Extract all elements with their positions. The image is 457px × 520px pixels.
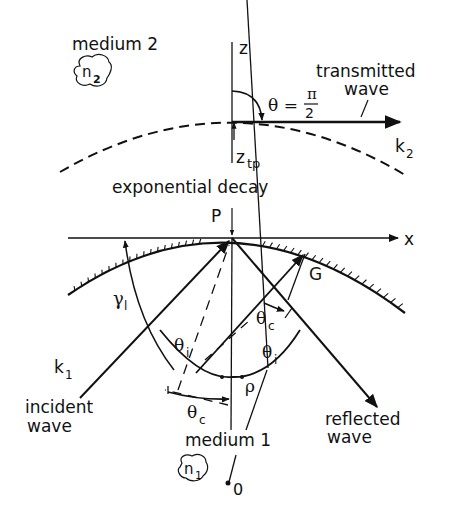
theta-pi-2-arc xyxy=(232,91,262,120)
x-axis-label: x xyxy=(404,229,414,249)
reflected-label-line2: wave xyxy=(327,427,372,447)
svg-text:z: z xyxy=(236,147,245,167)
incident-label-line1: incident xyxy=(25,397,94,417)
svg-text:i: i xyxy=(274,353,277,367)
theta-i-left-label: θ i xyxy=(174,335,189,360)
hatch-mark xyxy=(383,293,388,297)
k2-label: k 2 xyxy=(395,136,414,161)
hatch-mark xyxy=(319,258,323,263)
hatch-mark xyxy=(340,268,344,272)
svg-text:θ: θ xyxy=(174,335,184,355)
svg-text:2: 2 xyxy=(406,147,414,161)
hatch-mark xyxy=(74,286,75,290)
svg-text:γ: γ xyxy=(113,288,124,309)
k1-label: k 1 xyxy=(54,357,73,382)
hatch-mark xyxy=(355,276,359,280)
medium-1-label: medium 1 xyxy=(185,430,271,450)
svg-text:1: 1 xyxy=(65,368,73,382)
hatch-mark xyxy=(312,255,316,260)
center-o-label: 0 xyxy=(233,480,243,499)
n2-blob: n 2 xyxy=(74,55,111,86)
hatch-mark xyxy=(369,284,374,288)
svg-text:tp: tp xyxy=(247,156,260,171)
z-axis-label: z xyxy=(239,38,248,58)
hatch-mark xyxy=(151,249,152,254)
svg-text:2: 2 xyxy=(93,73,101,86)
hatch-mark xyxy=(362,280,367,284)
gamma-l-label: γ l xyxy=(113,288,127,313)
svg-text:n: n xyxy=(82,63,92,81)
hatch-mark xyxy=(391,298,396,302)
hatch-mark xyxy=(298,250,302,255)
hatch-mark xyxy=(398,304,403,308)
n1-blob: n 1 xyxy=(178,454,207,482)
svg-text:θ: θ xyxy=(262,342,272,362)
svg-text:k: k xyxy=(395,136,405,156)
hatch-mark xyxy=(333,264,337,269)
svg-text:i: i xyxy=(186,346,189,360)
hatch-mark xyxy=(157,247,158,252)
hatch-mark xyxy=(326,261,330,266)
transmitted-pointer xyxy=(361,100,368,117)
hatch-mark xyxy=(81,282,82,286)
g-label: G xyxy=(309,264,322,284)
svg-text:2: 2 xyxy=(305,105,314,121)
hatch-mark xyxy=(164,245,165,250)
hatch-mark xyxy=(88,278,89,282)
theta-c-upper-arc xyxy=(264,303,284,311)
svg-text:θ: θ xyxy=(187,402,197,422)
svg-text:l: l xyxy=(124,299,127,313)
hatch-mark xyxy=(291,248,294,253)
shifted-ray-to-g xyxy=(196,255,303,373)
svg-text:n: n xyxy=(184,460,194,478)
center-stub xyxy=(229,455,236,482)
svg-text:π: π xyxy=(307,85,317,103)
theta-i-right-label: θ i xyxy=(262,342,277,367)
hatch-mark xyxy=(376,289,381,293)
svg-text:θ =: θ = xyxy=(268,95,298,115)
point-p-label: P xyxy=(211,206,221,226)
transmitted-label-line2: wave xyxy=(344,79,389,99)
center-point-o xyxy=(226,481,231,486)
medium-2-label: medium 2 xyxy=(72,34,158,54)
theta-c-lower-label: θ c xyxy=(187,402,206,427)
diagram: medium 2 n 2 z z tp k 2 θ = π 2 transmit… xyxy=(0,0,457,520)
svg-text:k: k xyxy=(54,357,64,377)
incident-wave-ray xyxy=(80,241,229,398)
radius-dashed-to-g xyxy=(205,320,250,360)
svg-text:c: c xyxy=(199,413,206,427)
reflected-label-line1: reflected xyxy=(325,409,401,429)
rho-label: ρ xyxy=(245,376,255,396)
hatch-mark xyxy=(284,246,287,251)
transmitted-label-line1: transmitted xyxy=(316,61,416,81)
exponential-decay-label: exponential decay xyxy=(112,177,268,197)
theta-equals-pi-over-2: θ = π 2 xyxy=(268,85,318,121)
hatch-mark xyxy=(305,253,309,258)
svg-text:1: 1 xyxy=(195,469,202,482)
svg-text:θ: θ xyxy=(256,308,266,328)
svg-text:c: c xyxy=(268,319,275,333)
incident-label-line2: wave xyxy=(27,416,72,436)
hatch-mark xyxy=(348,272,352,276)
